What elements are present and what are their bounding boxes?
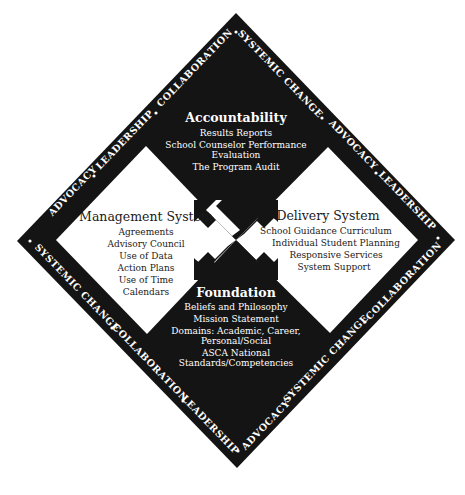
- asca-model-diagram: Accountability Results Reports School Co…: [0, 0, 465, 495]
- band-dot: [28, 239, 31, 242]
- management-item: Use of Data: [119, 251, 173, 261]
- band-dot: [92, 174, 95, 177]
- management-item: Advisory Council: [106, 239, 184, 249]
- foundation-item: Mission Statement: [193, 314, 279, 324]
- accountability-title: Accountability: [184, 110, 287, 125]
- band-dot: [320, 116, 323, 119]
- delivery-item: System Support: [297, 262, 370, 272]
- accountability-item: Results Reports: [200, 128, 273, 138]
- delivery-item: School Guidance Curriculum: [260, 226, 392, 236]
- delivery-title: Delivery System: [276, 208, 379, 223]
- band-dot: [154, 111, 157, 114]
- management-item: Action Plans: [117, 263, 175, 273]
- management-title: Management System: [79, 209, 213, 224]
- accountability-item: The Program Audit: [192, 162, 280, 172]
- foundation-item: Personal/Social: [201, 336, 271, 346]
- accountability-item: School Counselor Performance: [165, 140, 306, 150]
- foundation-item: Beliefs and Philosophy: [184, 302, 288, 312]
- management-item: Agreements: [117, 227, 173, 237]
- foundation-item: Domains: Academic, Career,: [171, 326, 300, 336]
- foundation-item: ASCA National: [201, 348, 270, 358]
- band-dot: [436, 236, 439, 239]
- management-item: Use of Time: [119, 275, 174, 285]
- band-dot: [363, 320, 366, 323]
- accountability-item: Evaluation: [212, 150, 261, 160]
- management-item: Calendars: [123, 287, 170, 297]
- band-dot: [374, 171, 377, 174]
- delivery-item: Responsive Services: [289, 250, 383, 260]
- foundation-title: Foundation: [196, 285, 276, 300]
- delivery-item: Individual Student Planning: [272, 238, 400, 248]
- foundation-item: Standards/Competencies: [179, 358, 294, 368]
- band-dot: [236, 449, 239, 452]
